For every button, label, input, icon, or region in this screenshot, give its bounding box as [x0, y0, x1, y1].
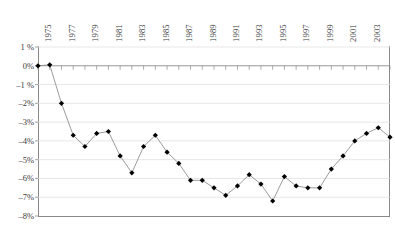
data-point-marker — [305, 185, 310, 190]
data-point-marker — [129, 170, 134, 175]
data-point-marker — [47, 62, 52, 67]
data-point-marker — [106, 129, 111, 134]
data-point-marker — [35, 63, 40, 68]
y-axis-ticks — [35, 47, 38, 216]
data-series-line — [38, 65, 390, 201]
data-point-marker — [270, 198, 275, 203]
data-point-marker — [59, 101, 64, 106]
data-point-marker — [364, 131, 369, 136]
chart-canvas — [0, 0, 395, 232]
data-point-marker — [317, 185, 322, 190]
data-point-marker — [211, 185, 216, 190]
data-point-marker — [118, 153, 123, 158]
line-chart: 1975197719791981198319851987198919911993… — [0, 0, 395, 232]
x-axis-ticks — [38, 66, 390, 70]
data-point-markers — [35, 62, 392, 203]
